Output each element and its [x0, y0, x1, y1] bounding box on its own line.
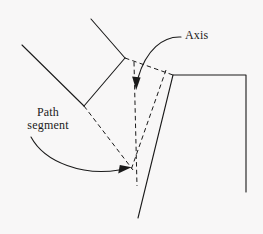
upper-left-diagonal [22, 45, 84, 106]
path-segment-label: Path segment [16, 106, 80, 132]
right-angle-bracket [173, 75, 246, 192]
axis-leader-curve [138, 37, 181, 78]
right-long-edge [138, 75, 173, 218]
path-segment-label-line2: segment [16, 119, 80, 132]
vertex-connector [84, 58, 125, 106]
axis-label: Axis [185, 29, 208, 42]
axis-arrowhead-icon [132, 77, 141, 90]
dashed-top-connector [125, 58, 173, 75]
path-segment-leader-group [31, 137, 132, 173]
top-left-edge [91, 19, 125, 58]
dashed-lower-left [84, 106, 133, 170]
diagram-canvas: Axis Path segment [0, 0, 263, 234]
path-segment-arrowhead-icon [118, 165, 131, 173]
path-segment-leader-curve [31, 137, 119, 171]
